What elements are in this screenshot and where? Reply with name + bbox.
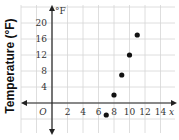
data-point — [104, 112, 109, 117]
x-tick-label: 8 — [111, 107, 117, 117]
y-axis-down-arrow-icon — [49, 129, 55, 135]
x-tick-label: 2 — [65, 107, 71, 117]
x-axis-right-arrow-icon — [171, 100, 177, 106]
data-point — [135, 32, 140, 37]
x-tick-label: 4 — [80, 107, 86, 117]
x-tick-label: 6 — [96, 107, 102, 117]
data-point — [119, 72, 124, 77]
y-tick-label: 20 — [36, 18, 48, 28]
y-tick-label: 16 — [36, 34, 48, 44]
y-tick-label: 12 — [36, 50, 47, 60]
data-point — [127, 52, 132, 57]
x-axis-left-arrow-icon — [21, 100, 27, 106]
scatter-plot: 246810121448121620Ox°F — [0, 0, 179, 140]
y-tick-label: 8 — [41, 66, 47, 76]
x-tick-label: 12 — [139, 107, 150, 117]
y-tick-label: 4 — [41, 82, 47, 92]
x-axis-label: x — [169, 107, 174, 117]
origin-label: O — [39, 107, 47, 117]
data-point — [111, 92, 116, 97]
y-axis-unit-label: °F — [55, 6, 66, 16]
x-tick-label: 14 — [155, 107, 167, 117]
x-tick-label: 10 — [124, 107, 136, 117]
